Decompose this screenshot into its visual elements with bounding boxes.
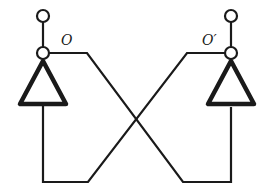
left-top-terminal-circle [37, 10, 49, 22]
right-inverter-triangle [208, 61, 254, 104]
node-label-o: O [61, 33, 72, 47]
node-label-o-prime: O′ [202, 33, 217, 47]
left-output-node-circle [37, 47, 49, 59]
diagram-canvas: O O′ [0, 0, 274, 195]
left-inverter-triangle [20, 61, 66, 104]
wire-o-to-right-input [49, 53, 231, 182]
flip-flop-diagram [0, 0, 274, 195]
right-top-terminal-circle [225, 10, 237, 22]
right-output-node-circle [225, 47, 237, 59]
